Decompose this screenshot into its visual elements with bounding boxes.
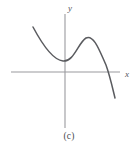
function-curve (33, 27, 115, 98)
graph-plot: x y (0, 0, 138, 132)
figure-caption: (c) (0, 131, 138, 141)
x-axis-label: x (124, 69, 129, 79)
y-axis-label: y (67, 3, 72, 13)
figure-container: x y (c) (0, 0, 138, 148)
